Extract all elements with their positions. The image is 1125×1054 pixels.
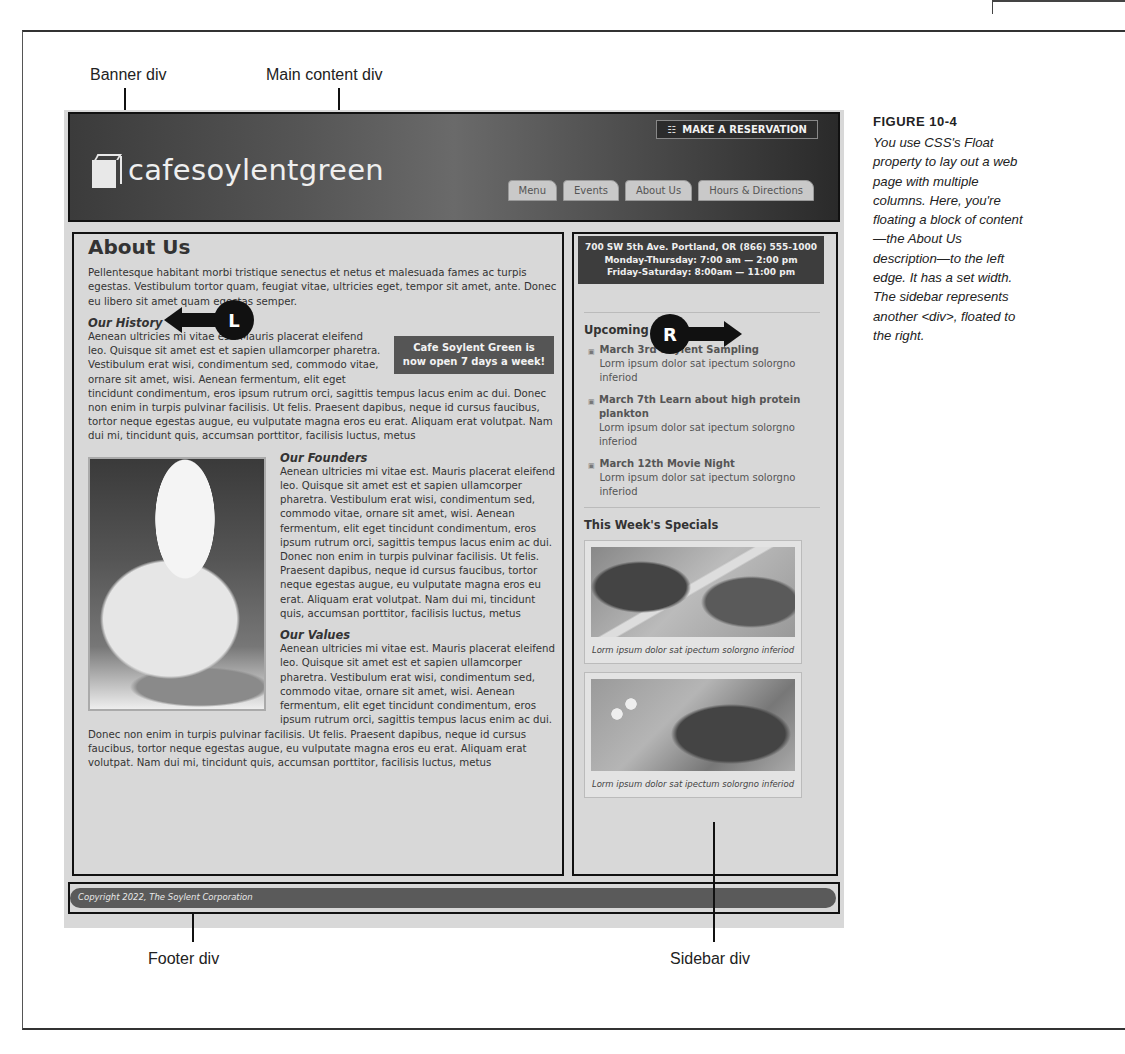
sidebar-divider [584, 312, 820, 313]
special-caption: Lorm ipsum dolor sat ipectum solorgno in… [591, 637, 795, 659]
figure-caption: FIGURE 10-4 You use CSS's Float property… [873, 114, 1023, 345]
page-title: About Us [88, 240, 558, 254]
special-caption: Lorm ipsum dolor sat ipectum solorgno in… [591, 771, 795, 793]
special-card[interactable]: Lorm ipsum dolor sat ipectum solorgno in… [584, 672, 802, 798]
float-left-marker: L [214, 300, 254, 340]
callout-main-label: Main content div [266, 66, 383, 84]
hours-weekday: Monday-Thursday: 7:00 am — 2:00 pm [582, 254, 820, 267]
callout-banner-label: Banner div [90, 66, 167, 84]
event-title: March 12th Movie Night [599, 457, 820, 471]
chef-photo [88, 457, 266, 711]
special-photo [591, 547, 795, 637]
event-item[interactable]: ▣ March 7th Learn about high protein pla… [588, 393, 820, 449]
right-arrow-icon [724, 321, 742, 347]
contact-info-box: 700 SW 5th Ave. Portland, OR (866) 555-1… [578, 236, 824, 284]
event-desc: Lorm ipsum dolor sat ipectum solorgno in… [599, 357, 820, 385]
footer: Copyright 2022, The Soylent Corporation [70, 888, 836, 908]
address: 700 SW 5th Ave. Portland, OR (866) 555-1… [582, 241, 820, 254]
section-heading-history: Our History [88, 316, 558, 330]
callout-sidebar-line [713, 822, 715, 942]
callout-sidebar-label: Sidebar div [670, 950, 750, 968]
calendar-icon: ▣ [588, 393, 595, 449]
event-desc: Lorm ipsum dolor sat ipectum solorgno in… [599, 421, 820, 449]
callout-footer-line [192, 914, 194, 942]
specials-heading: This Week's Specials [584, 518, 820, 532]
event-desc: Lorm ipsum dolor sat ipectum solorgno in… [599, 471, 820, 499]
sidebar-divider [584, 507, 820, 508]
event-title: March 7th Learn about high protein plank… [599, 393, 820, 421]
float-right-marker: R [650, 314, 690, 354]
figure-caption-text: You use CSS's Float property to lay out … [873, 133, 1023, 345]
hours-weekend: Friday-Saturday: 8:00am — 11:00 pm [582, 266, 820, 279]
calendar-icon: ▣ [588, 343, 595, 385]
intro-paragraph: Pellentesque habitant morbi tristique se… [88, 266, 558, 309]
event-item[interactable]: ▣ March 12th Movie Night Lorm ipsum dolo… [588, 457, 820, 499]
callout-footer-label: Footer div [148, 950, 219, 968]
special-photo [591, 679, 795, 771]
main-content: About Us Pellentesque habitant morbi tri… [88, 240, 558, 777]
right-arrow-bar [686, 327, 726, 341]
figure-title: FIGURE 10-4 [873, 114, 1023, 129]
special-card[interactable]: Lorm ipsum dolor sat ipectum solorgno in… [584, 540, 802, 664]
open-7-days-notice: Cafe Soylent Green is now open 7 days a … [394, 336, 554, 374]
calendar-icon: ▣ [588, 457, 595, 499]
sidebar: Upcoming Events ▣ March 3rd Soylent Samp… [584, 312, 820, 798]
event-item[interactable]: ▣ March 3rd Soylent Sampling Lorm ipsum … [588, 343, 820, 385]
event-title: March 3rd Soylent Sampling [599, 343, 820, 357]
page-tab-mark [992, 0, 1125, 14]
copyright-text: Copyright 2022, The Soylent Corporation [78, 892, 253, 902]
banner-div-outline [68, 112, 840, 222]
